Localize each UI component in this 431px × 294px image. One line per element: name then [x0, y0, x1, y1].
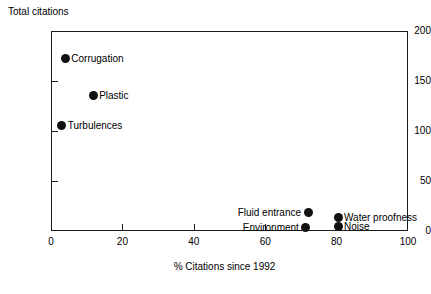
- scatter-chart-figure: Total citations 050100150200 02040608010…: [0, 0, 431, 294]
- x-axis-title-text: % Citations since 1992: [174, 261, 276, 272]
- y-tick-label: 100: [387, 126, 431, 136]
- data-point-label: Corrugation: [71, 53, 123, 64]
- x-tick-label: 0: [31, 236, 71, 248]
- data-point-marker: [334, 213, 343, 222]
- x-tick-mark: [194, 224, 195, 231]
- data-point-marker: [334, 222, 343, 231]
- x-axis-title: % Citations since 1992: [0, 261, 431, 273]
- y-tick-label: 150: [387, 76, 431, 86]
- y-axis-title: Total citations: [8, 6, 69, 18]
- y-tick-mark: [51, 131, 58, 132]
- data-point-label: Environment: [243, 222, 299, 233]
- x-tick-label: 20: [102, 236, 142, 248]
- y-tick-label: 200: [387, 26, 431, 36]
- data-point-marker: [304, 208, 313, 217]
- y-tick-label: 0: [387, 226, 431, 236]
- y-tick-mark: [51, 181, 58, 182]
- y-tick-mark: [51, 81, 58, 82]
- x-tick-label: 80: [317, 236, 357, 248]
- data-point-marker: [301, 223, 310, 232]
- data-point-marker: [57, 121, 66, 130]
- data-point-label: Turbulences: [68, 120, 123, 131]
- data-point-label: Noise: [344, 221, 370, 232]
- data-point-marker: [61, 54, 70, 63]
- x-tick-label: 100: [388, 236, 428, 248]
- x-tick-label: 40: [174, 236, 214, 248]
- y-tick-label: 50: [387, 176, 431, 186]
- x-tick-mark: [122, 224, 123, 231]
- data-point-marker: [89, 91, 98, 100]
- x-tick-label: 60: [245, 236, 285, 248]
- data-point-label: Plastic: [99, 90, 128, 101]
- data-point-label: Fluid entrance: [238, 207, 301, 218]
